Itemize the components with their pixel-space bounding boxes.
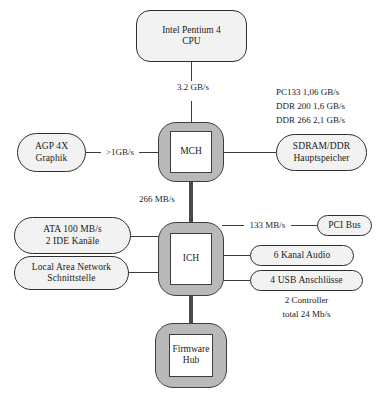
node-pci-label: PCI Bus (328, 220, 361, 231)
node-mch-label: MCH (180, 146, 202, 157)
connector-ich-to-ata (131, 236, 160, 237)
link-label-mch-ich: 266 MB/s (126, 193, 188, 206)
diagram-canvas: Intel Pentium 4 CPU 3.2 GB/s MCH AGP 4X … (0, 0, 383, 397)
node-firmware-hub[interactable]: Firmware Hub (155, 323, 227, 388)
node-ich-inner: ICH (170, 233, 212, 285)
connector-ich-to-usb (222, 280, 250, 281)
connector-mch-to-memory (224, 152, 276, 153)
memory-speed-ddr266: DDR 266 2,1 GB/s (276, 114, 383, 128)
link-label-ich-pci: 133 MB/s (244, 219, 291, 232)
node-agp-graphics[interactable]: AGP 4X Graphik (17, 133, 86, 172)
node-mch[interactable]: MCH (158, 122, 224, 182)
node-main-memory[interactable]: SDRAM/DDR Hauptspeicher (276, 134, 367, 171)
usb-notes: 2 Controller total 24 Mb/s (250, 294, 363, 321)
node-fwh-inner: Firmware Hub (169, 334, 212, 377)
node-ich[interactable]: ICH (158, 222, 224, 296)
node-ich-label: ICH (183, 253, 199, 264)
cropped-caption (6, 392, 206, 397)
usb-note-controllers: 2 Controller (250, 294, 363, 308)
node-lan-line1: Local Area Network (32, 262, 111, 273)
node-lan-line2: Schnittstelle (47, 273, 95, 284)
node-memory-line2: Hauptspeicher (293, 153, 349, 164)
connector-pci-label-to-pci (291, 225, 317, 226)
connector-ich-to-fwh (189, 296, 193, 324)
node-memory-line1: SDRAM/DDR (293, 141, 350, 152)
connector-label-to-mch (191, 101, 192, 123)
node-audio[interactable]: 6 Kanal Audio (250, 245, 354, 266)
node-ata-line1: ATA 100 MB/s (43, 224, 102, 235)
node-cpu-line2: CPU (182, 36, 200, 47)
connector-ich-to-pci-label (222, 225, 244, 226)
node-agp-line1: AGP 4X (35, 141, 68, 152)
node-lan-interface[interactable]: Local Area Network Schnittstelle (14, 256, 129, 290)
node-agp-line2: Graphik (36, 153, 68, 164)
node-usb-label: 4 USB Anschlüsse (270, 275, 342, 286)
memory-speed-ddr200: DDR 200 1,6 GB/s (276, 100, 383, 114)
node-ata-line2: 2 IDE Kanäle (46, 236, 99, 247)
memory-speed-pc133: PC133 1,06 GB/s (276, 86, 383, 100)
node-ata-ide[interactable]: ATA 100 MB/s 2 IDE Kanäle (14, 217, 131, 254)
memory-speeds-note: PC133 1,06 GB/s DDR 200 1,6 GB/s DDR 266… (276, 86, 383, 128)
node-pci-bus[interactable]: PCI Bus (317, 215, 372, 236)
node-audio-label: 6 Kanal Audio (274, 250, 331, 261)
node-cpu-line1: Intel Pentium 4 (162, 25, 221, 36)
node-mch-inner: MCH (170, 131, 212, 173)
node-cpu[interactable]: Intel Pentium 4 CPU (136, 10, 247, 62)
connector-ich-to-lan (129, 272, 160, 273)
node-usb[interactable]: 4 USB Anschlüsse (250, 270, 363, 291)
link-label-cpu-mch: 3.2 GB/s (160, 81, 226, 94)
usb-note-total: total 24 Mb/s (250, 308, 363, 322)
node-fwh-line1: Firmware (173, 344, 210, 355)
connector-ich-to-audio (222, 255, 250, 256)
node-fwh-line2: Hub (183, 355, 199, 366)
link-label-agp-mch: >1GB/s (101, 146, 139, 159)
